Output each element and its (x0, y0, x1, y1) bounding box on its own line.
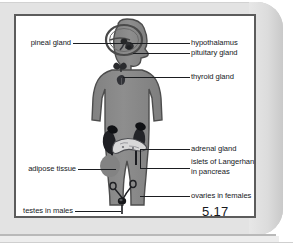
leader-pineal (73, 43, 123, 44)
figure-stage: pineal gland hypothalamus pituitary glan… (16, 16, 254, 216)
label-ovaries-in-females: ovaries in females (191, 191, 251, 201)
label-thyroid-gland: thyroid gland (191, 72, 234, 82)
leader-adrenal (140, 149, 190, 150)
label-adrenal-gland: adrenal gland (191, 144, 236, 154)
page-edge-line-upper (0, 234, 276, 236)
leader-thyroid (123, 77, 190, 78)
label-hypothalamus: hypothalamus (191, 38, 238, 48)
figure-screenshot: pineal gland hypothalamus pituitary glan… (0, 0, 293, 251)
label-islets-of-langerhans: islets of Langerhans in pancreas (191, 157, 256, 176)
adipose-tissue-region (100, 155, 120, 177)
leader-pituitary (133, 53, 190, 54)
figure-panel: pineal gland hypothalamus pituitary glan… (14, 14, 256, 218)
leader-islets (140, 168, 190, 169)
leader-hypothalamus (130, 43, 190, 44)
leader-islets-stub (140, 149, 141, 169)
figure-number: 5.17 (202, 204, 229, 218)
leader-adipose (78, 169, 116, 170)
leader-ovaries (140, 196, 190, 197)
label-testes-in-males: testes in males (16, 206, 73, 216)
label-adipose-tissue: adipose tissue (16, 164, 76, 174)
leader-testes (75, 211, 121, 212)
human-body-illustration (88, 18, 174, 218)
label-pineal-gland: pineal gland (16, 38, 71, 48)
page-edge-line-lower (0, 242, 293, 243)
label-pituitary-gland: pituitary gland (191, 48, 238, 58)
